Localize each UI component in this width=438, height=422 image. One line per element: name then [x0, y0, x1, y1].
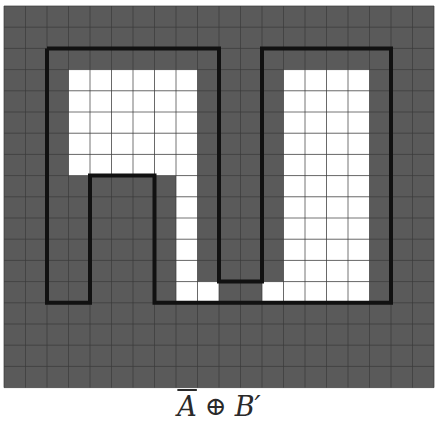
morphology-grid-figure [0, 0, 438, 422]
grid-cell-white [327, 218, 349, 239]
grid-cell-white [284, 91, 306, 112]
caption-a-complement: A [177, 391, 197, 422]
grid-cell-white [176, 260, 198, 281]
grid-cell-white [155, 133, 177, 154]
grid-cell-white [327, 176, 349, 197]
grid-cell-white [133, 133, 155, 154]
grid-cell-white [262, 282, 284, 303]
grid-cell-white [305, 260, 327, 281]
grid-cell-white [198, 282, 220, 303]
grid-cell-white [176, 239, 198, 260]
grid-cell-white [348, 70, 370, 91]
grid-cell-white [327, 91, 349, 112]
grid-cell-white [327, 154, 349, 175]
grid-cell-white [305, 239, 327, 260]
grid-cell-white [305, 176, 327, 197]
caption-dilation-operator: ⊕ [205, 391, 227, 421]
grid-cell-white [348, 239, 370, 260]
grid-cell-white [348, 197, 370, 218]
grid-cell-white [176, 218, 198, 239]
grid-cell-white [348, 112, 370, 133]
grid-cell-white [327, 282, 349, 303]
grid-cell-white [90, 91, 112, 112]
grid-cell-white [305, 70, 327, 91]
grid-cell-white [90, 133, 112, 154]
grid-cell-white [305, 282, 327, 303]
grid-cell-white [112, 154, 134, 175]
figure-caption: A ⊕ B′ [0, 390, 438, 422]
grid-cell-white [155, 112, 177, 133]
grid-cell-white [69, 91, 91, 112]
grid-cell-white [305, 197, 327, 218]
grid-cell-white [69, 154, 91, 175]
grid-cell-white [284, 282, 306, 303]
grid-cell-white [284, 70, 306, 91]
grid-cell-white [327, 112, 349, 133]
grid-cell-white [176, 133, 198, 154]
grid-cell-white [305, 154, 327, 175]
grid-cell-white [112, 133, 134, 154]
grid-cell-white [305, 112, 327, 133]
grid-cell-white [112, 91, 134, 112]
grid-cell-white [90, 154, 112, 175]
grid-cell-white [90, 112, 112, 133]
grid-cell-white [112, 70, 134, 91]
grid-cell-white [327, 197, 349, 218]
grid-cell-white [284, 218, 306, 239]
grid-cell-white [69, 70, 91, 91]
grid-cell-white [133, 154, 155, 175]
grid-cell-white [112, 112, 134, 133]
grid-cell-white [284, 197, 306, 218]
grid-cell-white [348, 154, 370, 175]
grid-cell-white [284, 112, 306, 133]
grid-cell-white [327, 70, 349, 91]
grid-cell-white [305, 91, 327, 112]
grid-cell-white [284, 239, 306, 260]
grid-cell-white [176, 197, 198, 218]
caption-b-prime: B′ [235, 391, 261, 422]
grid-cell-white [284, 176, 306, 197]
grid-cell-white [176, 112, 198, 133]
grid-cell-white [284, 260, 306, 281]
grid-cell-white [348, 91, 370, 112]
grid-cell-white [348, 218, 370, 239]
grid-cell-white [176, 154, 198, 175]
grid-cell-white [155, 70, 177, 91]
grid-cell-white [348, 282, 370, 303]
grid-cell-white [69, 112, 91, 133]
grid-cell-white [133, 70, 155, 91]
grid-cell-white [176, 176, 198, 197]
grid-cell-white [327, 239, 349, 260]
grid-cell-white [90, 70, 112, 91]
grid-cell-white [327, 133, 349, 154]
grid-cell-white [133, 91, 155, 112]
grid-cell-white [69, 133, 91, 154]
grid-cell-white [348, 260, 370, 281]
grid-cell-white [327, 260, 349, 281]
grid-cell-white [176, 91, 198, 112]
grid-cell-white [176, 282, 198, 303]
grid-cell-white [155, 154, 177, 175]
grid-cell-white [348, 133, 370, 154]
grid-cell-white [284, 133, 306, 154]
grid-cell-white [133, 112, 155, 133]
grid-cell-white [176, 70, 198, 91]
grid-cell-white [305, 218, 327, 239]
grid-cell-white [305, 133, 327, 154]
grid-cell-white [348, 176, 370, 197]
grid-cell-white [284, 154, 306, 175]
grid-cell-white [155, 91, 177, 112]
